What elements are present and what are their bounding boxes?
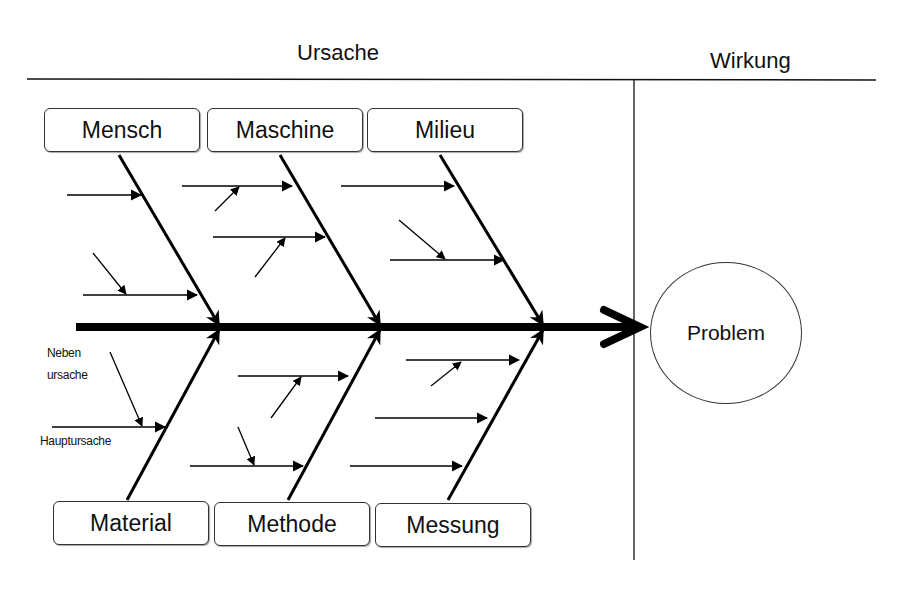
category-methode: Methode [214,502,370,546]
effect-header: Wirkung [710,48,791,74]
header-divider-line [27,79,876,80]
legend-main-cause: Hauptursache [40,430,111,452]
category-messung: Messung [375,503,531,547]
category-maschine: Maschine [207,108,363,152]
category-material: Material [53,501,209,545]
category-milieu: Milieu [367,108,523,152]
category-mensch: Mensch [44,108,200,152]
legend-secondary-cause-line2: ursache [47,364,88,386]
effect-problem-ellipse: Problem [650,262,802,404]
legend-secondary-cause-line1: Neben [47,342,81,364]
cause-header: Ursache [297,40,379,66]
effect-problem-label: Problem [687,321,765,345]
